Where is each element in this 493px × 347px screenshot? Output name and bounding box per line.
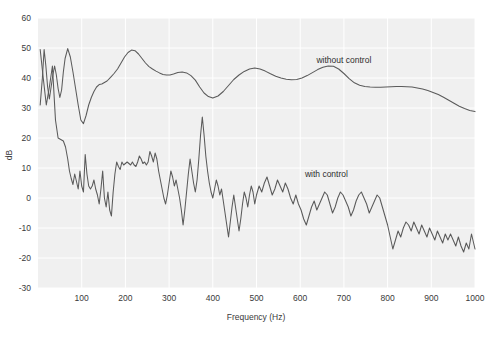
x-tick-labels: 1002003004005006007008009001000 (75, 293, 485, 303)
chart-container: 1002003004005006007008009001000 -30-20-1… (0, 0, 493, 347)
y-tick-30: 30 (22, 103, 32, 113)
x-tick-800: 800 (381, 293, 395, 303)
x-tick-600: 600 (293, 293, 307, 303)
y-tick-40: 40 (22, 73, 32, 83)
y-tick--20: -20 (19, 253, 32, 263)
y-tick-60: 60 (22, 13, 32, 23)
annotation-with-control: with control (304, 169, 348, 179)
x-tick-900: 900 (424, 293, 438, 303)
y-tick--10: -10 (19, 223, 32, 233)
y-tick-labels: -30-20-100102030405060 (19, 13, 32, 293)
y-tick-10: 10 (22, 163, 32, 173)
y-tick-50: 50 (22, 43, 32, 53)
series-line-with-control (40, 50, 475, 253)
x-tick-100: 100 (75, 293, 89, 303)
annotation-without-control: without control (315, 55, 371, 65)
y-axis-title: dB (4, 149, 14, 160)
x-tick-400: 400 (206, 293, 220, 303)
x-tick-1000: 1000 (466, 293, 485, 303)
series-layer (40, 49, 475, 252)
x-axis-title: Frequency (Hz) (227, 312, 286, 322)
series-annotations: without controlwith control (304, 55, 371, 179)
x-tick-700: 700 (337, 293, 351, 303)
y-tick-0: 0 (26, 193, 31, 203)
x-tick-500: 500 (249, 293, 263, 303)
series-line-without-control (40, 49, 475, 124)
chart-svg: 1002003004005006007008009001000 -30-20-1… (0, 0, 493, 347)
y-tick--30: -30 (19, 283, 32, 293)
x-tick-200: 200 (118, 293, 132, 303)
y-tick-20: 20 (22, 133, 32, 143)
x-tick-300: 300 (162, 293, 176, 303)
grid-layer (38, 18, 475, 288)
